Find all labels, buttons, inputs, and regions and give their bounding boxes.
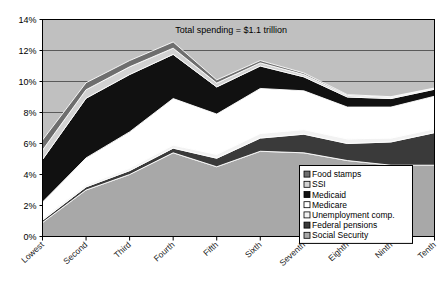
y-axis-tick-label: 4% <box>23 170 36 180</box>
y-axis-tick-label: 6% <box>23 139 36 149</box>
legend-item: Federal pensions <box>304 220 377 230</box>
y-axis-tick-label: 14% <box>18 15 36 25</box>
legend-swatch <box>304 181 310 187</box>
legend-label: Medicare <box>312 200 347 210</box>
x-axis-tick-label: Third <box>112 239 133 260</box>
legend-label: Food stamps <box>312 169 361 179</box>
x-axis-tick-label: Fourth <box>152 239 177 263</box>
stacked-area-chart: 0%2%4%6%8%10%12%14%LowestSecondThirdFour… <box>0 0 446 286</box>
y-axis-tick-label: 0% <box>23 232 36 242</box>
legend-label: Unemployment comp. <box>312 210 395 220</box>
chart-legend: Food stampsSSIMedicaidMedicareUnemployme… <box>300 166 413 244</box>
legend-swatch <box>304 202 310 208</box>
x-axis-tick-label: Tenth <box>416 239 438 261</box>
legend-swatch <box>304 212 310 218</box>
legend-swatch <box>304 171 310 177</box>
legend-item: Social Security <box>304 230 369 240</box>
x-axis-tick-label: Fifth <box>201 239 220 258</box>
legend-label: SSI <box>312 179 326 189</box>
legend-label: Social Security <box>312 230 369 240</box>
annotations: Total spending = $1.1 trillion <box>175 25 287 35</box>
legend-label: Federal pensions <box>312 220 377 230</box>
legend-item: Unemployment comp. <box>304 210 395 220</box>
legend-swatch <box>304 222 310 228</box>
x-axis-tick-label: Sixth <box>243 239 264 259</box>
y-axis-tick-label: 10% <box>18 77 36 87</box>
x-axis-tick-label: Second <box>61 239 89 266</box>
y-axis-tick-label: 8% <box>23 108 36 118</box>
y-axis-tick-label: 2% <box>23 201 36 211</box>
legend-item: Food stamps <box>304 169 361 179</box>
chart-canvas: 0%2%4%6%8%10%12%14%LowestSecondThirdFour… <box>0 0 446 286</box>
legend-swatch <box>304 192 310 198</box>
y-axis: 0%2%4%6%8%10%12%14% <box>18 15 42 242</box>
legend-label: Medicaid <box>312 190 346 200</box>
x-axis-tick-label: Lowest <box>19 239 46 265</box>
chart-annotation: Total spending = $1.1 trillion <box>175 25 287 35</box>
y-axis-tick-label: 12% <box>18 46 36 56</box>
legend-swatch <box>304 232 310 238</box>
